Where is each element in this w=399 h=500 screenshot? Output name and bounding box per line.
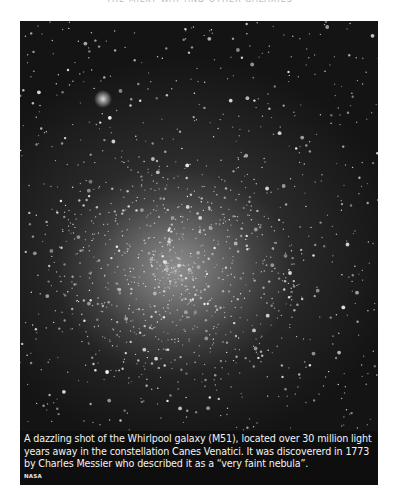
figure-caption: A dazzling shot of the Whirlpool galaxy … [24,433,374,471]
star-points [20,21,378,431]
running-head: THE MILKY WAY AND OTHER GALAXIES [0,0,399,5]
photo-credit: NASA [24,473,374,479]
figure: A dazzling shot of the Whirlpool galaxy … [20,21,378,485]
caption-panel: A dazzling shot of the Whirlpool galaxy … [20,431,378,485]
